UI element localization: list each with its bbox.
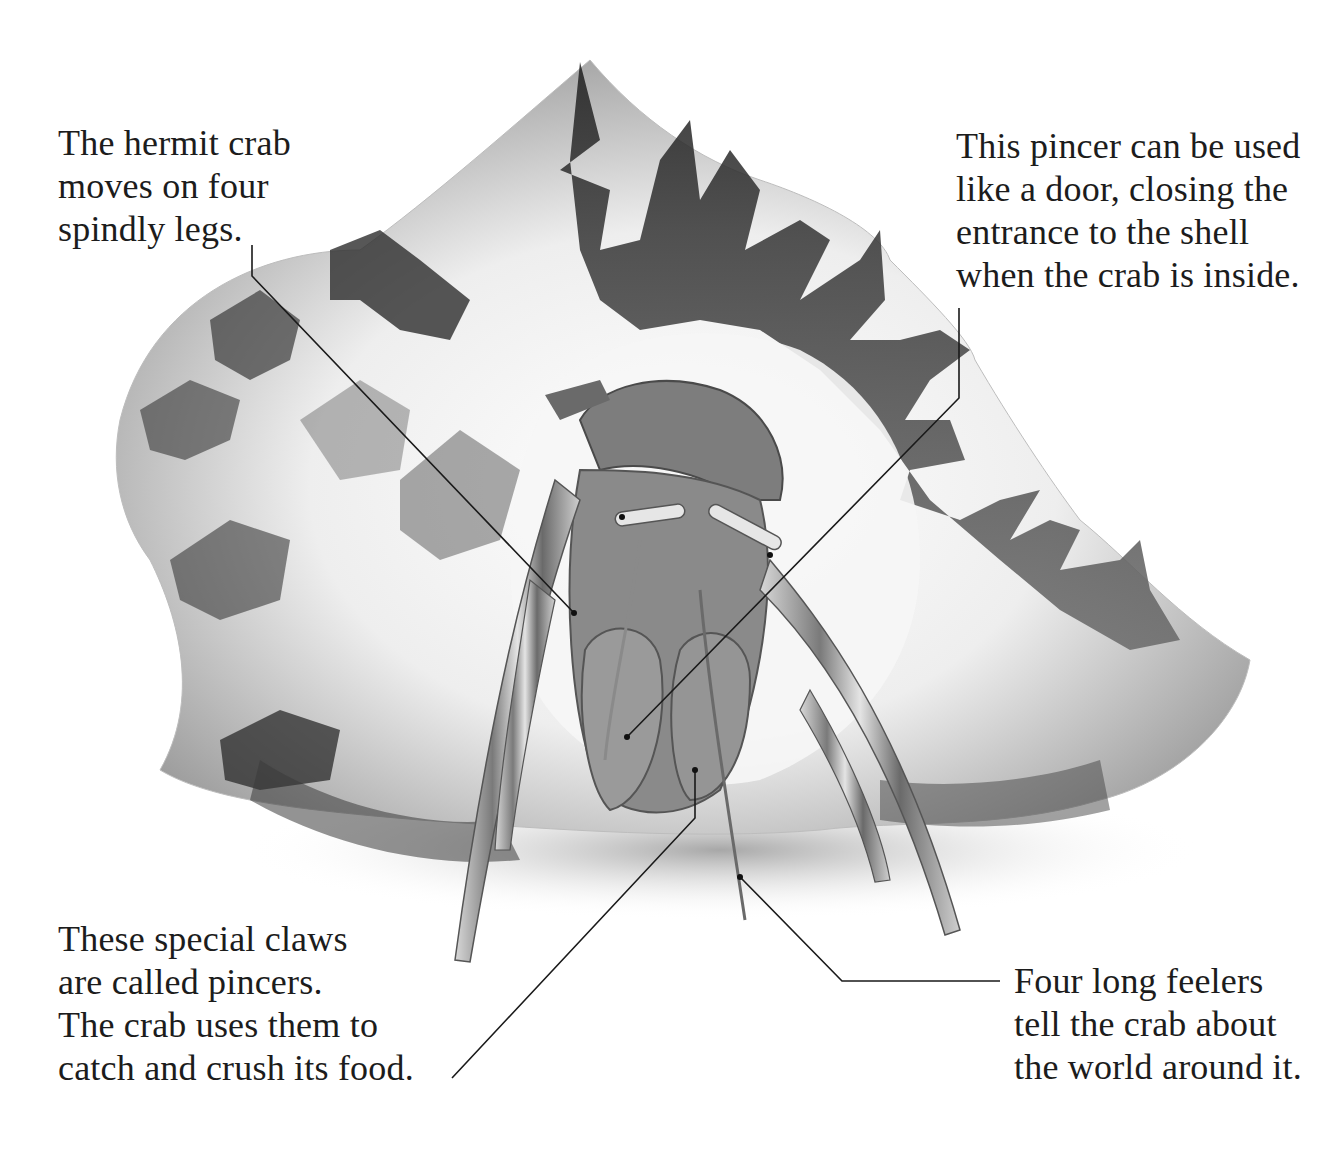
callout-pincers-line-1: These special claws (58, 918, 414, 961)
callout-pincers-line-4: catch and crush its food. (58, 1047, 414, 1090)
callout-pincers-line-2: are called pincers. (58, 961, 414, 1004)
callout-door-line-4: when the crab is inside. (956, 254, 1300, 297)
callout-pincers-line-3: The crab uses them to (58, 1004, 414, 1047)
callout-feelers: Four long feelers tell the crab about th… (1014, 960, 1302, 1089)
callout-feelers-line-1: Four long feelers (1014, 960, 1302, 1003)
callout-door-line-1: This pincer can be used (956, 125, 1300, 168)
callout-door-line-3: entrance to the shell (956, 211, 1300, 254)
diagram-stage: The hermit crab moves on four spindly le… (0, 0, 1319, 1158)
callout-legs-line-1: The hermit crab (58, 122, 291, 165)
callout-pincers: These special claws are called pincers. … (58, 918, 414, 1090)
callout-feelers-line-3: the world around it. (1014, 1046, 1302, 1089)
callout-legs-line-3: spindly legs. (58, 208, 291, 251)
callout-door-line-2: like a door, closing the (956, 168, 1300, 211)
callout-legs: The hermit crab moves on four spindly le… (58, 122, 291, 251)
callout-legs-line-2: moves on four (58, 165, 291, 208)
callout-door-pincer: This pincer can be used like a door, clo… (956, 125, 1300, 297)
callout-feelers-line-2: tell the crab about (1014, 1003, 1302, 1046)
